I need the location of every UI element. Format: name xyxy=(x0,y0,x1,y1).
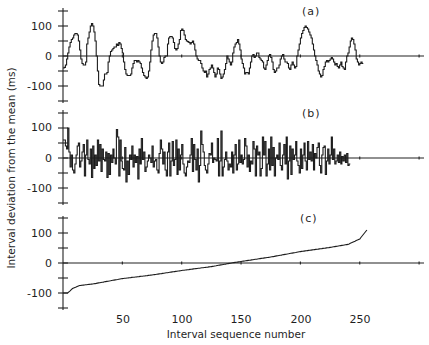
panel-c-trace xyxy=(63,230,367,293)
panel-b-tick-0: 0 xyxy=(45,152,52,165)
panel-c: 100 0 -100 (c) xyxy=(27,212,424,310)
x-tick-250: 250 xyxy=(350,313,371,326)
panel-a-label: (a) xyxy=(302,5,320,18)
y-axis-title: Interval deviation from the mean (ms) xyxy=(5,67,17,268)
panel-a-tick-0: 0 xyxy=(45,50,52,63)
panel-c-tick-100: 100 xyxy=(31,227,52,240)
panel-a: 100 0 -100 (a) xyxy=(27,5,424,103)
x-tick-50: 50 xyxy=(116,313,130,326)
panel-c-label: (c) xyxy=(300,212,318,225)
panel-b: 100 0 -100 (b) xyxy=(27,107,424,205)
x-tick-200: 200 xyxy=(291,313,312,326)
panel-b-label: (b) xyxy=(302,107,321,120)
panel-b-trace xyxy=(63,128,350,182)
panel-c-tick-minus-100: -100 xyxy=(27,287,52,300)
panel-c-tick-0: 0 xyxy=(45,257,52,270)
panel-a-trace xyxy=(63,24,363,86)
x-tick-150: 150 xyxy=(231,313,252,326)
x-tick-labels: 50 100 150 200 250 xyxy=(116,313,371,326)
panel-a-tick-100: 100 xyxy=(31,20,52,33)
panel-b-tick-100: 100 xyxy=(31,121,52,134)
figure: Interval deviation from the mean (ms) 10… xyxy=(0,0,429,345)
panel-b-tick-minus-100: -100 xyxy=(27,182,52,195)
panel-a-tick-minus-100: -100 xyxy=(27,80,52,93)
x-axis-title: Interval sequence number xyxy=(167,328,306,340)
x-tick-100: 100 xyxy=(172,313,193,326)
